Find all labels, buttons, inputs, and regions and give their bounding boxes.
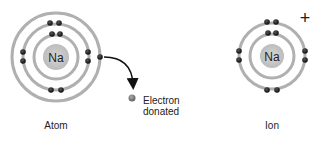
donated-label-line2: donated [143,106,179,117]
donated-electron-dot [129,95,136,102]
ion-nucleus-label: Na [264,50,280,64]
ion-diagram: Na + Ion [236,8,310,131]
ionization-diagram: Na Atom Electron donated Na [0,0,322,145]
atom-diagram: Na Atom [12,13,103,131]
ion-caption: Ion [265,120,279,131]
ion-charge: + [300,8,311,28]
atom-caption: Atom [44,120,67,131]
donation-arrow [104,57,133,84]
donated-label-line1: Electron [143,95,180,106]
donated-electron: Electron donated [129,95,180,118]
atom-nucleus-label: Na [48,51,64,65]
